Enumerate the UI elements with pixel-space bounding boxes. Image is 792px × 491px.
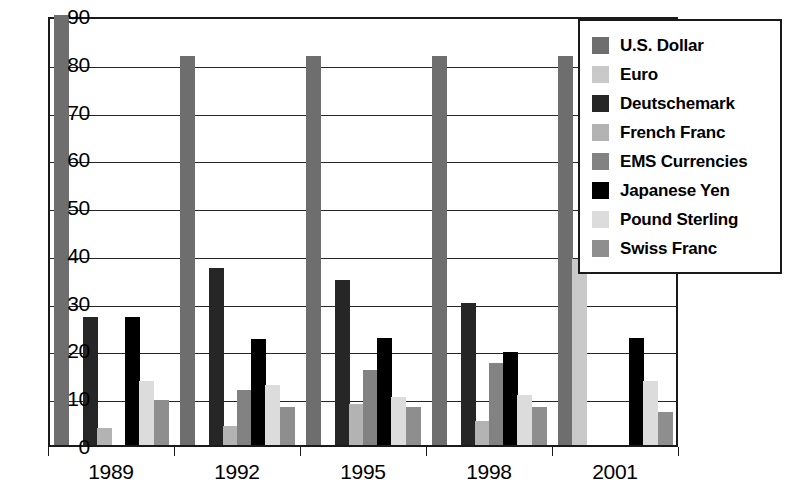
legend-label: Pound Sterling: [620, 210, 738, 230]
legend-item: French Franc: [592, 118, 772, 147]
bar: [643, 381, 658, 446]
bar: [97, 428, 112, 445]
chart-legend: U.S. DollarEuroDeutschemarkFrench FrancE…: [578, 19, 782, 274]
bar-group: [50, 19, 176, 445]
legend-swatch-icon: [592, 211, 609, 228]
bar: [349, 404, 364, 445]
legend-swatch-icon: [592, 95, 609, 112]
legend-item: EMS Currencies: [592, 147, 772, 176]
legend-label: Deutschemark: [620, 94, 735, 114]
bar-chart: 0102030405060708090 19891992199519982001…: [0, 0, 792, 491]
legend-swatch-icon: [592, 182, 609, 199]
x-tick-label: 1998: [434, 461, 544, 482]
bar: [475, 421, 490, 445]
legend-label: French Franc: [620, 123, 725, 143]
x-tick-label: 1992: [182, 461, 292, 482]
legend-swatch-icon: [592, 66, 609, 83]
legend-label: Swiss Franc: [620, 239, 717, 259]
bar: [54, 15, 69, 445]
bar: [572, 259, 587, 445]
legend-item: Euro: [592, 60, 772, 89]
bar: [265, 385, 280, 445]
legend-label: U.S. Dollar: [620, 36, 704, 56]
bar: [209, 268, 224, 445]
legend-item: U.S. Dollar: [592, 31, 772, 60]
bar: [251, 339, 266, 445]
bar: [532, 407, 547, 445]
bar: [223, 426, 238, 445]
bar: [125, 317, 140, 445]
bar: [503, 352, 518, 445]
x-tick: [48, 447, 49, 456]
legend-swatch-icon: [592, 153, 609, 170]
x-tick: [426, 447, 427, 456]
bar-group: [302, 19, 428, 445]
bar: [629, 338, 644, 446]
x-tick: [300, 447, 301, 456]
bar: [517, 395, 532, 445]
x-tick-label: 1989: [56, 461, 166, 482]
legend-item: Pound Sterling: [592, 205, 772, 234]
legend-swatch-icon: [592, 124, 609, 141]
bar: [180, 56, 195, 445]
x-axis: 19891992199519982001: [48, 447, 678, 491]
bar: [306, 56, 321, 445]
legend-label: Japanese Yen: [620, 181, 730, 201]
bar: [461, 303, 476, 445]
legend-item: Swiss Franc: [592, 234, 772, 263]
bar: [335, 280, 350, 445]
bar: [154, 400, 169, 445]
bar: [658, 412, 673, 445]
x-tick: [174, 447, 175, 456]
x-tick-label: 2001: [560, 461, 670, 482]
bar: [363, 370, 378, 445]
legend-item: Deutschemark: [592, 89, 772, 118]
bar: [432, 56, 447, 445]
x-tick-label: 1995: [308, 461, 418, 482]
bar: [83, 317, 98, 445]
bar: [391, 397, 406, 445]
x-tick: [552, 447, 553, 456]
bar-group: [176, 19, 302, 445]
bar: [139, 381, 154, 446]
x-tick: [678, 447, 679, 456]
bar: [406, 407, 421, 445]
bar: [280, 407, 295, 445]
legend-swatch-icon: [592, 240, 609, 257]
bar: [558, 56, 573, 445]
legend-swatch-icon: [592, 37, 609, 54]
legend-label: EMS Currencies: [620, 152, 748, 172]
bar: [237, 390, 252, 445]
legend-label: Euro: [620, 65, 658, 85]
bar: [489, 363, 504, 445]
legend-item: Japanese Yen: [592, 176, 772, 205]
bar-group: [428, 19, 554, 445]
bar: [377, 338, 392, 446]
